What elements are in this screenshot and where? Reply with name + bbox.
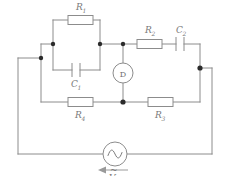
label-r2: R 2 bbox=[144, 25, 156, 37]
node-dot-branch-right bbox=[98, 42, 102, 46]
label-r2-subscript: 2 bbox=[151, 30, 156, 37]
label-c1: C 1 bbox=[71, 79, 81, 91]
component-c2 bbox=[176, 38, 184, 51]
label-r1-subscript: 1 bbox=[83, 7, 87, 14]
label-r4-subscript: 4 bbox=[81, 115, 86, 122]
node-dot-right-bridge bbox=[197, 65, 202, 70]
component-detector: D bbox=[113, 63, 133, 83]
label-r4: R 4 bbox=[74, 110, 86, 122]
node-dot-left-bridge bbox=[39, 56, 43, 60]
component-c1 bbox=[72, 64, 80, 77]
component-r3 bbox=[148, 98, 173, 107]
label-c2-subscript: 2 bbox=[182, 30, 187, 37]
label-r3-subscript: 3 bbox=[162, 115, 166, 122]
label-r1: R 1 bbox=[75, 2, 86, 14]
component-ac-source bbox=[103, 142, 127, 166]
component-r2 bbox=[137, 40, 162, 49]
label-source-voltage: ~ V bbox=[109, 165, 118, 176]
label-c1-subscript: 1 bbox=[78, 84, 82, 91]
label-c2: C 2 bbox=[176, 25, 187, 37]
circuit-diagram: D R 1 C 1 bbox=[0, 0, 230, 176]
label-r3: R 3 bbox=[154, 110, 166, 122]
node-dot-bottom-center bbox=[120, 99, 125, 104]
node-dot-branch-left bbox=[51, 42, 55, 46]
detector-label: D bbox=[120, 70, 126, 79]
component-r1 bbox=[68, 16, 93, 25]
schematic-canvas: D R 1 C 1 bbox=[0, 0, 230, 176]
node-dot-top-center bbox=[121, 42, 125, 46]
component-r4 bbox=[68, 98, 93, 107]
